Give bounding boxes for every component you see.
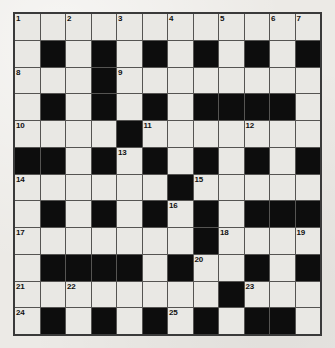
letter-cell[interactable]: 21 (15, 282, 40, 308)
letter-cell[interactable] (15, 255, 40, 281)
letter-cell[interactable] (194, 282, 219, 308)
letter-cell[interactable]: 1 (15, 14, 40, 40)
letter-cell[interactable] (117, 175, 142, 201)
letter-cell[interactable] (15, 201, 40, 227)
letter-cell[interactable] (117, 228, 142, 254)
letter-cell[interactable] (296, 68, 321, 94)
letter-cell[interactable] (66, 148, 91, 174)
letter-cell[interactable] (168, 228, 193, 254)
letter-cell[interactable] (168, 121, 193, 147)
letter-cell[interactable]: 14 (15, 175, 40, 201)
letter-cell[interactable]: 20 (194, 255, 219, 281)
letter-cell[interactable] (296, 94, 321, 120)
letter-cell[interactable]: 23 (245, 282, 270, 308)
letter-cell[interactable] (92, 282, 117, 308)
letter-cell[interactable] (143, 68, 168, 94)
letter-cell[interactable] (194, 68, 219, 94)
letter-cell[interactable] (143, 255, 168, 281)
letter-cell[interactable] (245, 68, 270, 94)
letter-cell[interactable]: 8 (15, 68, 40, 94)
letter-cell[interactable]: 11 (143, 121, 168, 147)
letter-cell[interactable] (41, 121, 66, 147)
letter-cell[interactable] (270, 175, 295, 201)
letter-cell[interactable]: 3 (117, 14, 142, 40)
letter-cell[interactable] (117, 94, 142, 120)
letter-cell[interactable] (66, 201, 91, 227)
letter-cell[interactable] (41, 175, 66, 201)
letter-cell[interactable] (66, 308, 91, 334)
letter-cell[interactable]: 13 (117, 148, 142, 174)
letter-cell[interactable] (117, 282, 142, 308)
letter-cell[interactable] (66, 94, 91, 120)
letter-cell[interactable] (219, 121, 244, 147)
letter-cell[interactable] (270, 282, 295, 308)
letter-cell[interactable] (41, 228, 66, 254)
letter-cell[interactable] (270, 121, 295, 147)
letter-cell[interactable] (296, 308, 321, 334)
letter-cell[interactable] (168, 41, 193, 67)
letter-cell[interactable]: 18 (219, 228, 244, 254)
letter-cell[interactable] (245, 175, 270, 201)
letter-cell[interactable] (41, 282, 66, 308)
letter-cell[interactable] (245, 228, 270, 254)
letter-cell[interactable]: 2 (66, 14, 91, 40)
letter-cell[interactable] (168, 148, 193, 174)
letter-cell[interactable] (15, 41, 40, 67)
letter-cell[interactable] (41, 68, 66, 94)
letter-cell[interactable] (15, 94, 40, 120)
letter-cell[interactable] (66, 68, 91, 94)
letter-cell[interactable] (143, 175, 168, 201)
crossword-grid[interactable]: 1234567891011121314151617181920212223242… (15, 14, 320, 334)
letter-cell[interactable]: 19 (296, 228, 321, 254)
letter-cell[interactable]: 25 (168, 308, 193, 334)
letter-cell[interactable] (168, 68, 193, 94)
letter-cell[interactable] (296, 282, 321, 308)
letter-cell[interactable] (168, 282, 193, 308)
letter-cell[interactable] (92, 228, 117, 254)
letter-cell[interactable]: 5 (219, 14, 244, 40)
letter-cell[interactable] (296, 175, 321, 201)
letter-cell[interactable] (219, 175, 244, 201)
letter-cell[interactable] (143, 14, 168, 40)
letter-cell[interactable]: 4 (168, 14, 193, 40)
letter-cell[interactable] (270, 255, 295, 281)
letter-cell[interactable] (219, 201, 244, 227)
letter-cell[interactable] (66, 121, 91, 147)
letter-cell[interactable]: 6 (270, 14, 295, 40)
letter-cell[interactable] (245, 14, 270, 40)
letter-cell[interactable] (194, 121, 219, 147)
letter-cell[interactable] (66, 175, 91, 201)
letter-cell[interactable] (219, 308, 244, 334)
letter-cell[interactable] (66, 41, 91, 67)
letter-cell[interactable] (66, 228, 91, 254)
letter-cell[interactable] (194, 14, 219, 40)
letter-cell[interactable] (117, 308, 142, 334)
letter-cell[interactable] (296, 121, 321, 147)
letter-cell[interactable] (270, 41, 295, 67)
letter-cell[interactable] (117, 201, 142, 227)
letter-cell[interactable] (270, 68, 295, 94)
letter-cell[interactable] (92, 121, 117, 147)
letter-cell[interactable] (219, 68, 244, 94)
letter-cell[interactable]: 7 (296, 14, 321, 40)
letter-cell[interactable]: 10 (15, 121, 40, 147)
letter-cell[interactable] (168, 94, 193, 120)
letter-cell[interactable]: 15 (194, 175, 219, 201)
letter-cell[interactable] (143, 228, 168, 254)
letter-cell[interactable] (219, 255, 244, 281)
letter-cell[interactable] (219, 41, 244, 67)
letter-cell[interactable] (143, 282, 168, 308)
letter-cell[interactable] (219, 148, 244, 174)
letter-cell[interactable]: 9 (117, 68, 142, 94)
letter-cell[interactable] (92, 175, 117, 201)
letter-cell[interactable]: 22 (66, 282, 91, 308)
letter-cell[interactable]: 24 (15, 308, 40, 334)
letter-cell[interactable] (270, 228, 295, 254)
letter-cell[interactable]: 17 (15, 228, 40, 254)
letter-cell[interactable]: 12 (245, 121, 270, 147)
letter-cell[interactable]: 16 (168, 201, 193, 227)
letter-cell[interactable] (92, 14, 117, 40)
letter-cell[interactable] (41, 14, 66, 40)
letter-cell[interactable] (117, 41, 142, 67)
letter-cell[interactable] (270, 148, 295, 174)
